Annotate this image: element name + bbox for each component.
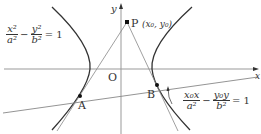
hyperbola-diagram: y x O P (x₀, y₀) A B x² a² − y² b² = 1 x… [0, 0, 261, 134]
hyperbola-equation: x² a² − y² b² = 1 [6, 24, 65, 45]
polar-term1: x₀x a² [183, 90, 200, 111]
point-P-label: P (x₀, y₀) [131, 18, 172, 29]
y-axis-arrow-icon [119, 3, 123, 9]
point-P-coords: (x₀, y₀) [142, 19, 172, 29]
point-A-label: A [78, 100, 86, 111]
point-P-marker [125, 20, 129, 24]
polar-term2: y₀y b² [213, 90, 230, 111]
origin-label: O [108, 72, 117, 83]
point-B-label: B [147, 89, 155, 100]
point-A-marker [78, 94, 82, 98]
point-P-name: P [131, 17, 138, 30]
x-axis-label: x [255, 72, 260, 81]
hyperbola-term1: x² a² [6, 24, 18, 45]
pointer-arrowhead-icon [167, 86, 170, 91]
hyperbola-term2: y² b² [30, 24, 42, 45]
tangent-line-PB [127, 22, 178, 131]
y-axis-label: y [111, 4, 117, 14]
polar-equation: x₀x a² − y₀y b² = 1 [183, 90, 252, 111]
point-B-marker [155, 83, 159, 87]
